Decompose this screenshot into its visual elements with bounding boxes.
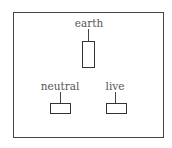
neutral-label: neutral (41, 80, 80, 92)
socket-diagram: earth neutral live (0, 0, 172, 148)
earth-label: earth (75, 17, 104, 29)
live-slot (107, 104, 127, 114)
neutral-slot (51, 104, 71, 114)
earth-slot (83, 42, 95, 68)
live-label: live (106, 80, 125, 92)
